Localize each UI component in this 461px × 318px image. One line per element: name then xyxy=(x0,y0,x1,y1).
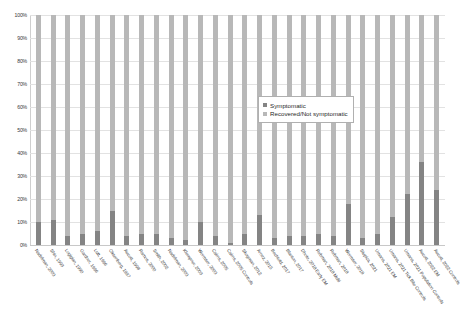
x-label-column: Nadelman, 2003 xyxy=(164,247,179,318)
bar-column xyxy=(164,15,179,245)
bar-segment-symptomatic xyxy=(346,204,351,245)
y-axis-tick-label: 40% xyxy=(17,150,27,156)
bar-segment-recovered xyxy=(434,15,439,190)
bar-segment-recovered xyxy=(198,15,203,222)
bar-segment-recovered xyxy=(316,15,321,234)
y-axis-tick-label: 60% xyxy=(17,104,27,110)
bar-stack xyxy=(272,15,277,245)
bar-column xyxy=(238,15,253,245)
bar-segment-recovered xyxy=(419,15,424,162)
bar-column xyxy=(61,15,76,245)
gridline xyxy=(30,245,445,246)
legend-swatch-recovered xyxy=(263,112,267,116)
bar-column xyxy=(208,15,223,245)
bar-segment-recovered xyxy=(95,15,100,231)
x-label-column: Blanton, 2017 xyxy=(282,247,297,318)
y-axis-tick-label: 50% xyxy=(17,127,27,133)
x-label-column: Smith, 2002 xyxy=(149,247,164,318)
bar-segment-symptomatic xyxy=(419,162,424,245)
y-axis-tick-label: 70% xyxy=(17,81,27,87)
x-label-column: Stupica, 2021 xyxy=(356,247,371,318)
bar-stack xyxy=(419,15,424,245)
legend-item-symptomatic: Symptomatic xyxy=(263,102,348,109)
y-axis-tick-label: 80% xyxy=(17,58,27,64)
plot-area xyxy=(30,15,445,245)
x-label-column: Oksenberg, 1997 xyxy=(105,247,120,318)
bar-segment-symptomatic xyxy=(390,217,395,245)
y-axis-tick-label: 90% xyxy=(17,35,27,41)
legend-label-symptomatic: Symptomatic xyxy=(270,102,306,109)
bar-segment-recovered xyxy=(51,15,56,220)
x-label-column: Nadelman, 2003 xyxy=(31,247,46,318)
x-label-column: Arnez, 2015 xyxy=(252,247,267,318)
bar-stack xyxy=(331,15,336,245)
x-label-column: Umana, 2021 EM xyxy=(370,247,385,318)
x-label-column: Cairns, 2005 xyxy=(208,247,223,318)
bar-segment-recovered xyxy=(213,15,218,236)
bar-column xyxy=(429,15,444,245)
bar-segment-recovered xyxy=(124,15,129,236)
x-label-column: Aucott, 2022 Controls xyxy=(429,247,444,318)
bar-segment-symptomatic xyxy=(65,236,70,245)
bar-segment-symptomatic xyxy=(331,236,336,245)
bar-segment-symptomatic xyxy=(375,234,380,246)
bar-stack xyxy=(360,15,365,245)
bar-segment-symptomatic xyxy=(316,234,321,246)
bar-segment-recovered xyxy=(360,15,365,238)
bar-column xyxy=(297,15,312,245)
x-label-column: Rebman, 2018 xyxy=(326,247,341,318)
bar-stack xyxy=(434,15,439,245)
bar-column xyxy=(105,15,120,245)
x-label-column: Klempner, 2003 xyxy=(179,247,194,318)
bars-container xyxy=(30,15,445,245)
bar-segment-symptomatic xyxy=(242,234,247,246)
bar-column xyxy=(311,15,326,245)
bar-segment-recovered xyxy=(272,15,277,238)
bar-column xyxy=(179,15,194,245)
bar-stack xyxy=(375,15,380,245)
bar-segment-recovered xyxy=(139,15,144,234)
bar-segment-recovered xyxy=(169,15,174,238)
x-label-column: Rebman, 2018 Multi xyxy=(311,247,326,318)
bar-segment-recovered xyxy=(65,15,70,236)
bar-stack xyxy=(301,15,306,245)
y-axis-tick-label: 20% xyxy=(17,196,27,202)
x-label-column: Luft, 1996 xyxy=(90,247,105,318)
bar-stack xyxy=(95,15,100,245)
bar-segment-recovered xyxy=(228,15,233,243)
bar-stack xyxy=(36,15,41,245)
bar-segment-recovered xyxy=(242,15,247,234)
x-axis-labels: Nadelman, 2003Shin, 1993Logigian, 1990Ga… xyxy=(30,247,445,318)
x-label-column: Ramos, 2000 xyxy=(134,247,149,318)
bar-column xyxy=(341,15,356,245)
y-axis-labels: 100%90%80%70%60%50%40%30%20%10%0% xyxy=(0,0,30,260)
bar-column xyxy=(252,15,267,245)
bar-segment-recovered xyxy=(36,15,41,222)
bar-stack xyxy=(51,15,56,245)
bar-stack xyxy=(110,15,115,245)
x-label-column: Aucott, 1998 xyxy=(120,247,135,318)
bar-column xyxy=(193,15,208,245)
bar-segment-symptomatic xyxy=(183,240,188,245)
bar-segment-recovered xyxy=(375,15,380,234)
bar-segment-symptomatic xyxy=(110,211,115,246)
bar-segment-symptomatic xyxy=(287,236,292,245)
bar-column xyxy=(415,15,430,245)
bar-segment-recovered xyxy=(287,15,292,236)
bar-segment-symptomatic xyxy=(405,194,410,245)
bar-column xyxy=(356,15,371,245)
x-axis-tick-label: Aucott, 2022 Controls xyxy=(433,248,461,285)
bar-stack xyxy=(390,15,395,245)
bar-segment-recovered xyxy=(405,15,410,194)
bar-segment-symptomatic xyxy=(139,234,144,246)
x-label-column: Dhote, 2018 Early EM xyxy=(297,247,312,318)
bar-column xyxy=(90,15,105,245)
bar-segment-symptomatic xyxy=(124,236,129,245)
x-label-column: Cairns, 2005 Controls xyxy=(223,247,238,318)
bar-stack xyxy=(242,15,247,245)
bar-stack xyxy=(316,15,321,245)
x-label-column: Umana, 2021 Population Controls xyxy=(400,247,415,318)
bar-column xyxy=(149,15,164,245)
bar-column xyxy=(326,15,341,245)
